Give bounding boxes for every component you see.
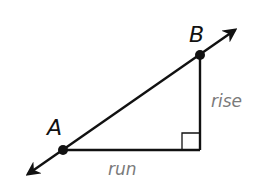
point-A — [58, 145, 68, 155]
point-B — [195, 50, 205, 60]
right-angle-marker — [182, 133, 200, 150]
slope-diagram: A B rise run — [0, 0, 264, 194]
label-run: run — [108, 159, 137, 179]
label-point-A: A — [45, 115, 62, 140]
label-rise: rise — [211, 91, 242, 111]
label-point-B: B — [189, 22, 204, 47]
